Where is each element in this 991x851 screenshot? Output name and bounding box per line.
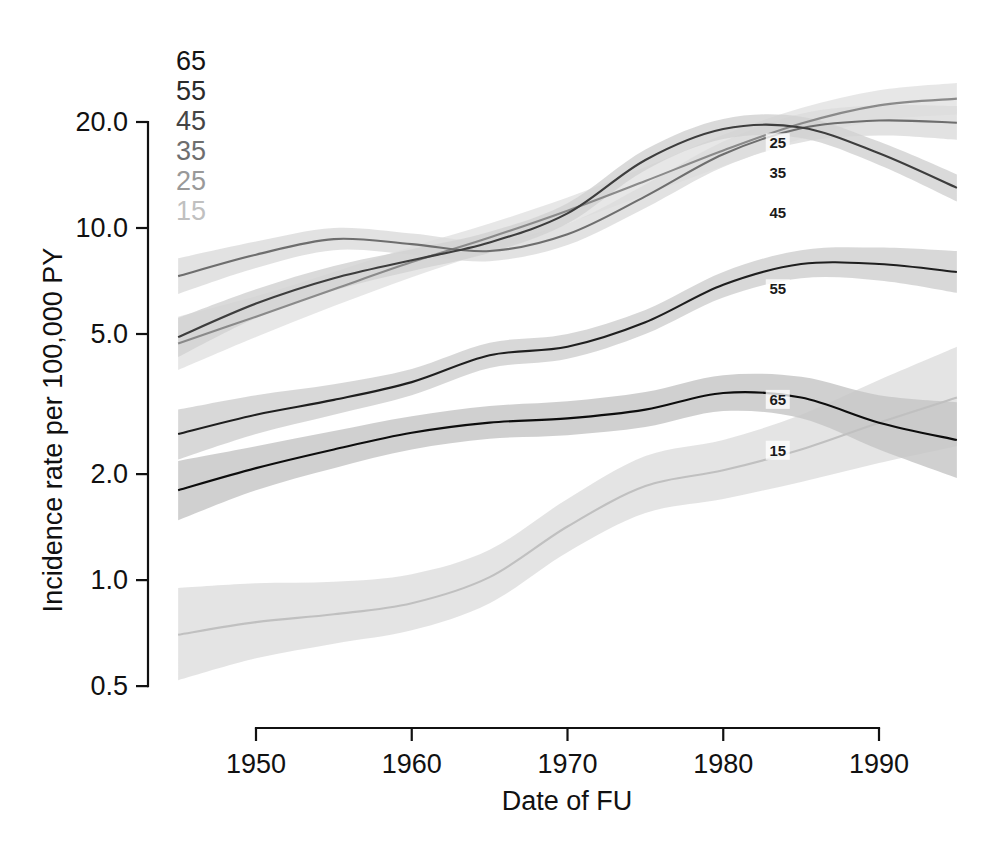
x-axis-ticks [256,728,879,741]
inline-label-15: 15 [769,442,786,459]
y-tick-label-5.0: 5.0 [90,319,128,349]
y-axis-ticks [136,122,148,686]
x-tick-label-1970: 1970 [537,749,597,779]
y-axis: 20.010.05.02.01.00.5 Incidence rate per … [38,107,148,701]
x-tick-label-1960: 1960 [382,749,442,779]
y-tick-label-0.5: 0.5 [90,671,128,701]
inline-label-group-25: 25 [766,133,790,152]
inline-label-55: 55 [769,280,786,297]
curve-group [178,99,957,635]
inline-label-group-65: 65 [766,390,790,409]
inline-label-group-15: 15 [766,441,790,460]
confidence-band-group [178,83,957,680]
inline-label-group-45: 45 [766,203,790,222]
y-tick-label-2.0: 2.0 [90,459,128,489]
legend: 655545352515 [176,46,206,226]
inline-label-45: 45 [769,204,786,221]
y-tick-label-20.0: 20.0 [75,107,128,137]
x-tick-label-1950: 1950 [226,749,286,779]
legend-item-35[interactable]: 35 [176,136,206,166]
y-tick-label-10.0: 10.0 [75,213,128,243]
chart-figure: 20.010.05.02.01.00.5 Incidence rate per … [0,0,991,851]
inline-label-35: 35 [769,164,786,181]
inline-label-group-55: 55 [766,279,790,298]
inline-label-65: 65 [769,391,786,408]
legend-item-45[interactable]: 45 [176,106,206,136]
x-axis-tick-labels: 19501960197019801990 [226,749,909,779]
legend-item-55[interactable]: 55 [176,76,206,106]
legend-item-65[interactable]: 65 [176,46,206,76]
x-tick-label-1980: 1980 [693,749,753,779]
legend-item-25[interactable]: 25 [176,166,206,196]
inline-label-25: 25 [769,134,786,151]
inline-label-group-35: 35 [766,163,790,182]
incidence-rate-line-chart: 20.010.05.02.01.00.5 Incidence rate per … [0,0,991,851]
y-tick-label-1.0: 1.0 [90,565,128,595]
x-axis: 19501960197019801990 Date of FU [226,728,909,816]
y-axis-title: Incidence rate per 100,000 PY [38,248,68,613]
x-axis-title: Date of FU [502,786,633,816]
legend-item-15[interactable]: 15 [176,196,206,226]
y-axis-tick-labels: 20.010.05.02.01.00.5 [75,107,128,701]
x-tick-label-1990: 1990 [849,749,909,779]
